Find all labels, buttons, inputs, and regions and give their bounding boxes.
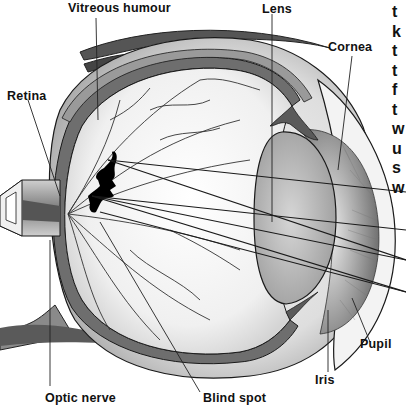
- clipped-side-text: t k t t f t w u s w: [392, 2, 404, 197]
- edge-text-line: t: [392, 61, 404, 81]
- edge-text-line: w: [392, 178, 404, 198]
- edge-text-line: t: [392, 41, 404, 61]
- edge-text-line: s: [392, 158, 404, 178]
- label-pupil: Pupil: [360, 337, 392, 351]
- label-iris: Iris: [315, 373, 335, 387]
- label-optic-nerve: Optic nerve: [45, 391, 116, 405]
- edge-text-line: t: [392, 100, 404, 120]
- eye-diagram: Vitreous humour Lens Cornea Retina Pupil…: [0, 0, 406, 410]
- edge-text-line: u: [392, 139, 404, 159]
- edge-text-line: t: [392, 2, 404, 22]
- label-vitreous-humour: Vitreous humour: [68, 1, 171, 15]
- edge-text-line: w: [392, 119, 404, 139]
- label-blind-spot: Blind spot: [203, 391, 266, 405]
- eye-illustration: [0, 0, 406, 410]
- edge-text-line: k: [392, 22, 404, 42]
- label-retina: Retina: [7, 89, 46, 103]
- edge-text-line: f: [392, 80, 404, 100]
- label-lens: Lens: [262, 2, 292, 16]
- label-cornea: Cornea: [328, 40, 372, 54]
- optic-nerve: [0, 180, 60, 236]
